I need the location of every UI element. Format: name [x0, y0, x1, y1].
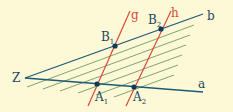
point-label-B1: B1: [101, 30, 114, 46]
ray-label-b: b: [207, 9, 215, 23]
point-label-B2: B2: [148, 13, 161, 29]
line-label-g: g: [131, 8, 139, 22]
diagram-canvas: baghB1B2A1A2Z: [0, 0, 233, 112]
hatch-line: [78, 55, 182, 93]
ray-label-a: a: [198, 77, 205, 91]
point-A2: [131, 84, 136, 89]
line-label-h: h: [171, 6, 179, 20]
point-A1: [94, 81, 99, 86]
vertex-label-Z: Z: [12, 71, 20, 85]
point-label-A2: A2: [132, 90, 146, 106]
parallel-hatch-lines: [27, 25, 194, 97]
point-label-A1: A1: [94, 90, 108, 106]
intercept-theorem-figure: baghB1B2A1A2Z: [0, 0, 233, 112]
